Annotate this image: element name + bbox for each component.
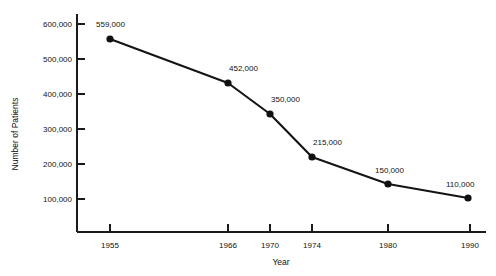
y-tick-label-400000: 400,000 — [43, 90, 72, 99]
x-tick-label-1974: 1974 — [303, 241, 321, 250]
data-point-1966[interactable] — [224, 79, 231, 86]
x-tick-label-1990: 1990 — [461, 241, 479, 250]
data-label-1980: 150,000 — [375, 166, 404, 175]
x-tick-label-1980: 1980 — [379, 241, 397, 250]
y-axis-title: Number of Patients — [10, 98, 20, 171]
x-axis-ticks — [110, 224, 470, 232]
y-tick-label-500000: 500,000 — [43, 55, 72, 64]
data-point-1990[interactable] — [464, 194, 471, 201]
line-chart: 600,000 500,000 400,000 300,000 200,000 … — [0, 0, 496, 276]
data-label-1974: 215,000 — [313, 138, 342, 147]
series-line-number-of-patients — [110, 39, 468, 198]
series-markers — [106, 35, 471, 201]
data-label-1966: 452,000 — [229, 64, 258, 73]
data-point-1955[interactable] — [106, 35, 113, 42]
y-tick-label-600000: 600,000 — [43, 20, 72, 29]
data-point-labels: 559,000 452,000 350,000 215,000 150,000 … — [96, 20, 475, 189]
data-label-1970: 350,000 — [271, 95, 300, 104]
y-axis-ticks — [77, 24, 85, 199]
x-axis-tick-labels: 1955 1966 1970 1974 1980 1990 — [101, 241, 479, 250]
chart-canvas: 600,000 500,000 400,000 300,000 200,000 … — [0, 0, 496, 276]
y-tick-label-100000: 100,000 — [43, 195, 72, 204]
data-label-1955: 559,000 — [96, 20, 125, 29]
x-tick-label-1966: 1966 — [219, 241, 237, 250]
y-axis-tick-labels: 600,000 500,000 400,000 300,000 200,000 … — [43, 20, 72, 204]
x-axis-title: Year — [272, 257, 289, 267]
x-tick-label-1970: 1970 — [261, 241, 279, 250]
data-point-1974[interactable] — [308, 153, 315, 160]
data-point-1970[interactable] — [266, 110, 273, 117]
x-tick-label-1955: 1955 — [101, 241, 119, 250]
data-point-1980[interactable] — [384, 180, 391, 187]
y-tick-label-300000: 300,000 — [43, 125, 72, 134]
y-tick-label-200000: 200,000 — [43, 160, 72, 169]
data-label-1990: 110,000 — [446, 180, 475, 189]
